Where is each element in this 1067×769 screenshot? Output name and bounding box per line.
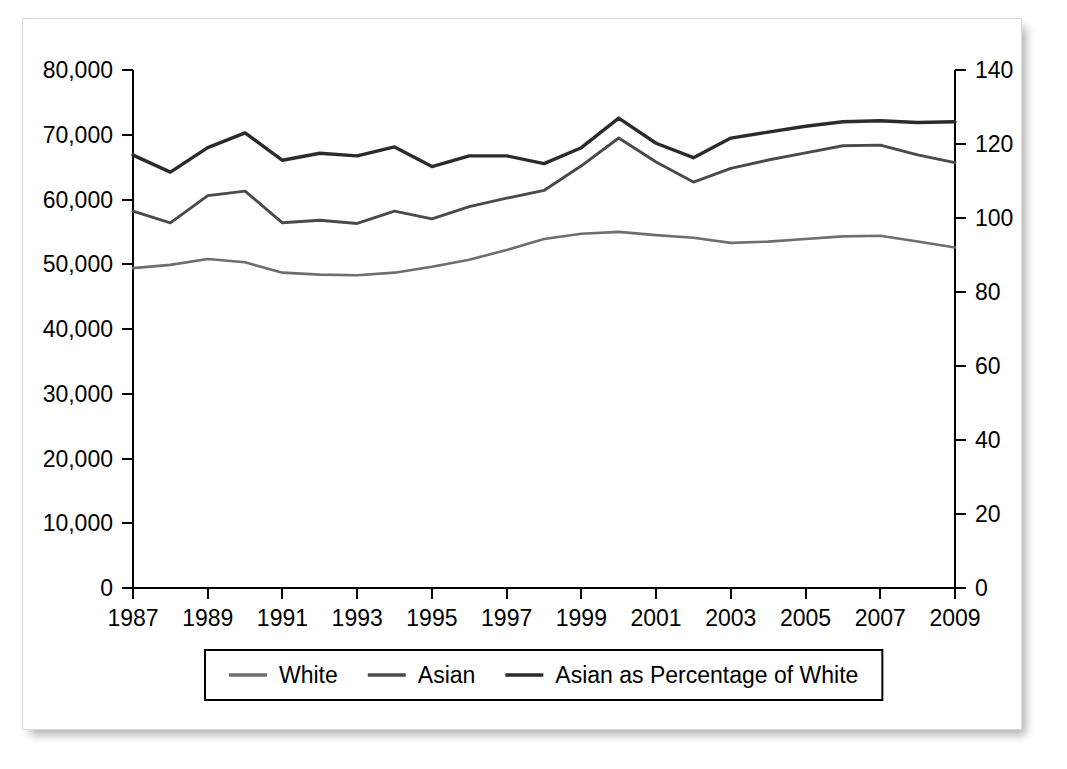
x-axis-tick-label: 2001 xyxy=(631,605,682,631)
y-axis-right-tick-label: 40 xyxy=(975,427,1001,453)
x-axis-tick-label: 1995 xyxy=(406,605,457,631)
y-axis-left-tick-label: 40,000 xyxy=(43,316,113,342)
figure-page: 010,00020,00030,00040,00050,00060,00070,… xyxy=(0,0,1067,769)
series-line-white xyxy=(133,232,955,275)
y-axis-right-tick-label: 60 xyxy=(975,353,1001,379)
x-axis-tick-label: 2009 xyxy=(929,605,980,631)
y-axis-left-tick-label: 70,000 xyxy=(43,122,113,148)
y-axis-right-tick-label: 140 xyxy=(975,57,1013,83)
x-axis: 1987198919911993199519971999200120032005… xyxy=(107,588,980,631)
y-axis-left-tick-label: 50,000 xyxy=(43,251,113,277)
x-axis-tick-label: 2005 xyxy=(780,605,831,631)
series-group xyxy=(133,118,955,275)
y-axis-right-tick-label: 100 xyxy=(975,205,1013,231)
y-axis-right: 020406080100120140 xyxy=(955,57,1013,601)
x-axis-tick-label: 2007 xyxy=(855,605,906,631)
y-axis-left: 010,00020,00030,00040,00050,00060,00070,… xyxy=(43,57,133,601)
y-axis-right-tick-label: 20 xyxy=(975,501,1001,527)
series-line-asian xyxy=(133,138,955,223)
legend-item-asian-label: Asian xyxy=(418,662,476,688)
x-axis-tick-label: 1997 xyxy=(481,605,532,631)
x-axis-tick-label: 1993 xyxy=(332,605,383,631)
chart-container: 010,00020,00030,00040,00050,00060,00070,… xyxy=(0,0,1067,769)
y-axis-left-tick-label: 60,000 xyxy=(43,187,113,213)
y-axis-right-tick-label: 80 xyxy=(975,279,1001,305)
x-axis-tick-label: 2003 xyxy=(705,605,756,631)
y-axis-right-tick-label: 0 xyxy=(975,575,988,601)
series-line-asian-as-percentage-of-white xyxy=(133,118,955,172)
y-axis-left-tick-label: 80,000 xyxy=(43,57,113,83)
x-axis-tick-label: 1989 xyxy=(182,605,233,631)
y-axis-left-tick-label: 20,000 xyxy=(43,446,113,472)
legend-item-asian-as-percentage-of-white-label: Asian as Percentage of White xyxy=(555,662,858,688)
y-axis-right-tick-label: 120 xyxy=(975,131,1013,157)
x-axis-tick-label: 1999 xyxy=(556,605,607,631)
y-axis-left-tick-label: 30,000 xyxy=(43,381,113,407)
legend-item-asian-as-percentage-of-white[interactable]: Asian as Percentage of White xyxy=(505,662,858,688)
legend: WhiteAsianAsian as Percentage of White xyxy=(205,650,882,700)
x-axis-tick-label: 1991 xyxy=(257,605,308,631)
line-chart: 010,00020,00030,00040,00050,00060,00070,… xyxy=(0,0,1067,769)
y-axis-left-tick-label: 0 xyxy=(100,575,113,601)
legend-item-white-label: White xyxy=(279,662,338,688)
x-axis-tick-label: 1987 xyxy=(107,605,158,631)
y-axis-left-tick-label: 10,000 xyxy=(43,510,113,536)
